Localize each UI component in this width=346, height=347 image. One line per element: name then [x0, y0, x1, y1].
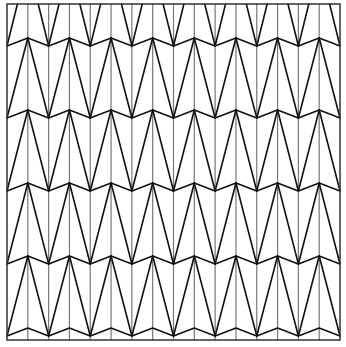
diagonal-line [257, 256, 278, 336]
diagonal-line [111, 38, 132, 118]
diagonal-line [215, 4, 225, 46]
diagonal-line [28, 38, 49, 118]
diagonal-line [298, 110, 319, 191]
diagonal-line [257, 4, 267, 46]
diagonal-line [236, 110, 257, 191]
diagonal-line [7, 38, 28, 118]
diagonal-line [257, 183, 278, 264]
diagonal-line [132, 38, 153, 118]
diagonal-line [215, 110, 236, 191]
diagonal-line [7, 256, 28, 336]
diagonal-line [194, 38, 215, 118]
diagonal-line [236, 256, 257, 336]
diagonal-line [246, 4, 256, 46]
diagonal-line [298, 38, 319, 118]
diagonal-line [132, 183, 153, 264]
diagonal-line [288, 4, 298, 46]
diagonal-line [90, 256, 111, 336]
diagonal-line [69, 38, 90, 118]
diagonal-line [49, 38, 70, 118]
diagonal-line [90, 38, 111, 118]
diagonal-line [194, 183, 215, 264]
diagonal-line [236, 38, 257, 118]
diagonal-line [28, 256, 49, 336]
diagonal-line [49, 110, 70, 191]
diagonal-line [121, 4, 131, 46]
diagonal-line [153, 38, 174, 118]
diagonal-line [215, 256, 236, 336]
diagonal-line [319, 183, 340, 264]
diagonal-line [278, 183, 299, 264]
diagonal-line [38, 4, 48, 46]
diagonal-line [7, 110, 28, 191]
diagonal-line [7, 4, 17, 46]
diagonal-line [194, 256, 215, 336]
diagonal-line [80, 4, 90, 46]
diagonal-line [132, 110, 153, 191]
diagonal-line [153, 256, 174, 336]
diagonal-line [174, 256, 195, 336]
diagonal-line [174, 4, 184, 46]
diagonal-line [153, 110, 174, 191]
diagonal-line [153, 183, 174, 264]
diagonal-line [90, 183, 111, 264]
diagonal-line [49, 256, 70, 336]
triangle-pattern-diagram [0, 0, 346, 347]
diagonal-line [69, 256, 90, 336]
diagonal-line [298, 4, 308, 46]
diagonal-line [69, 110, 90, 191]
diagonal-line [174, 38, 195, 118]
diagonal-line [111, 256, 132, 336]
diagonal-line [49, 4, 59, 46]
diagonal-line [215, 183, 236, 264]
diagonal-line [132, 4, 142, 46]
diagonal-line [7, 183, 28, 264]
diagonal-line [205, 4, 215, 46]
diagonal-line [163, 4, 173, 46]
diagonal-line [319, 110, 340, 191]
diagonal-line [278, 256, 299, 336]
diagonal-line [28, 110, 49, 191]
diagonal-line [298, 256, 319, 336]
diagonal-line [215, 38, 236, 118]
diagonal-line [319, 38, 340, 118]
diagonal-line [111, 183, 132, 264]
diagonal-line [257, 110, 278, 191]
diagonal-line [49, 183, 70, 264]
diagonal-line [132, 256, 153, 336]
diagonal-line [257, 38, 278, 118]
diagonal-line [111, 110, 132, 191]
vertical-lines [28, 4, 319, 340]
diagonal-line [174, 110, 195, 191]
diagonal-line [90, 4, 100, 46]
diagonal-line [194, 110, 215, 191]
diagonal-line [28, 183, 49, 264]
diagonal-line [278, 38, 299, 118]
diagonal-line [298, 183, 319, 264]
diagonal-line [319, 256, 340, 336]
diagonal-line [236, 183, 257, 264]
diagonal-line [174, 183, 195, 264]
diagonal-line [330, 4, 340, 46]
diagonal-line [278, 110, 299, 191]
diagonal-line [90, 110, 111, 191]
diagonal-line [69, 183, 90, 264]
